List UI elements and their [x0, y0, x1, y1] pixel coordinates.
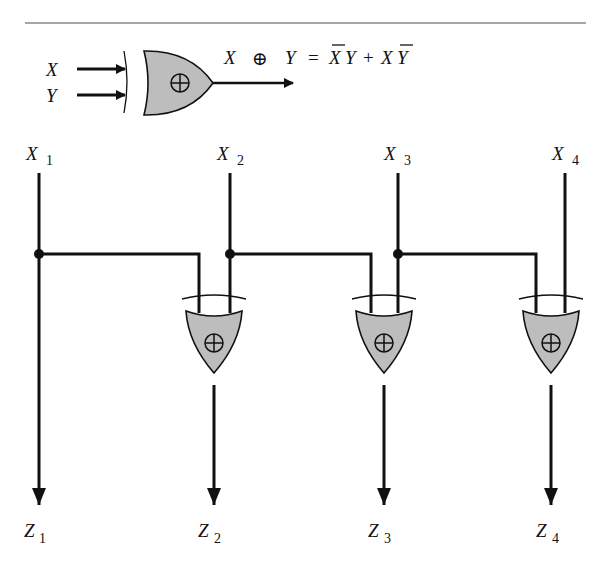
svg-text:Z: Z — [536, 520, 547, 541]
junction-dot-x1 — [34, 249, 44, 259]
xor-symbol: ⊕ — [252, 48, 268, 69]
svg-text:Y: Y — [397, 47, 410, 68]
svg-text:2: 2 — [237, 153, 244, 168]
legend-input-x: X — [45, 59, 59, 80]
svg-text:+: + — [363, 47, 374, 68]
svg-text:Z: Z — [198, 520, 209, 541]
svg-text:X: X — [223, 47, 237, 68]
output-label-z1: Z 1 — [24, 520, 46, 546]
input-label-x1: X 1 — [25, 143, 53, 168]
output-label-z3: Z 3 — [368, 520, 391, 546]
svg-text:3: 3 — [384, 531, 391, 546]
svg-text:=: = — [308, 47, 319, 68]
input-label-x2: X 2 — [216, 143, 244, 168]
svg-text:4: 4 — [552, 531, 559, 546]
output-label-z4: Z 4 — [536, 520, 559, 546]
svg-text:Z: Z — [368, 520, 379, 541]
xor-circuit-diagram: X Y X ⊕ Y = X Y + X Y X 1 X 2 X 3 X 4 — [0, 0, 612, 571]
svg-text:X: X — [328, 47, 342, 68]
xor-gate-4 — [519, 295, 583, 373]
svg-text:Y: Y — [285, 47, 298, 68]
input-label-x3: X 3 — [383, 143, 411, 168]
svg-text:X: X — [216, 143, 230, 164]
svg-text:X: X — [383, 143, 397, 164]
svg-text:1: 1 — [39, 531, 46, 546]
svg-text:Y: Y — [345, 47, 358, 68]
svg-text:X: X — [25, 143, 39, 164]
svg-text:Z: Z — [24, 520, 35, 541]
legend-input-y: Y — [46, 85, 59, 106]
svg-text:2: 2 — [214, 531, 221, 546]
junction-dot-x2 — [225, 249, 235, 259]
junction-dot-x3 — [393, 249, 403, 259]
wires — [39, 173, 565, 505]
output-label-z2: Z 2 — [198, 520, 221, 546]
svg-text:4: 4 — [572, 153, 579, 168]
svg-text:X: X — [551, 143, 565, 164]
xor-gate-3 — [352, 295, 416, 373]
svg-text:X: X — [380, 47, 394, 68]
svg-text:3: 3 — [404, 153, 411, 168]
xor-gate-2 — [182, 295, 246, 373]
svg-text:1: 1 — [46, 153, 53, 168]
input-label-x4: X 4 — [551, 143, 579, 168]
xor-equation: X ⊕ Y = X Y + X Y — [223, 45, 413, 69]
